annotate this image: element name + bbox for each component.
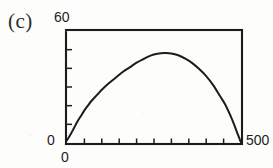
axis-frame xyxy=(66,30,242,144)
x-axis-ticks xyxy=(84,139,223,144)
panel-label: (c) xyxy=(8,9,33,33)
y-axis-ticks xyxy=(67,50,72,125)
plot-area xyxy=(65,29,243,145)
y-axis-min-label: 0 xyxy=(47,133,55,148)
figure-panel: (c) 60 0 0 500 xyxy=(0,0,273,168)
data-curve xyxy=(67,53,241,142)
x-axis-min-label: 0 xyxy=(61,150,69,165)
x-axis-max-label: 500 xyxy=(246,133,269,148)
y-axis-max-label: 60 xyxy=(54,10,70,25)
chart-svg xyxy=(65,29,243,145)
